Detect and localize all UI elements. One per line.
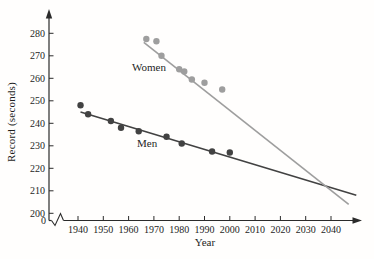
women-data-point	[158, 53, 164, 59]
men-data-point	[77, 102, 83, 108]
men-data-point	[179, 140, 185, 146]
x-tick-label: 1950	[93, 224, 113, 235]
women-data-point	[153, 38, 159, 44]
x-tick-label: 2020	[270, 224, 290, 235]
x-tick-label: 1980	[169, 224, 189, 235]
record-vs-year-chart: 2002102202302402502602702800194019501960…	[0, 0, 374, 259]
y-tick-label: 280	[30, 28, 45, 39]
women-data-point	[201, 80, 207, 86]
origin-label: 0	[41, 215, 46, 226]
women-data-point	[181, 68, 187, 74]
men-trend-line	[81, 112, 357, 195]
x-tick-label: 1940	[68, 224, 88, 235]
y-axis-arrow-icon	[46, 9, 52, 19]
women-data-point	[189, 76, 195, 82]
x-tick-label: 2030	[296, 224, 316, 235]
y-tick-label: 250	[30, 95, 45, 106]
y-tick-label: 240	[30, 118, 45, 129]
women-data-point	[219, 86, 225, 92]
chart-canvas: 2002102202302402502602702800194019501960…	[0, 0, 374, 259]
x-tick-label: 2000	[220, 224, 240, 235]
y-tick-label: 230	[30, 140, 45, 151]
men-data-point	[136, 128, 142, 134]
men-data-point	[108, 118, 114, 124]
men-data-point	[227, 149, 233, 155]
women-series-label: Women	[132, 61, 166, 73]
men-data-point	[85, 111, 91, 117]
x-tick-label: 2040	[321, 224, 341, 235]
men-data-point	[163, 134, 169, 140]
men-series-label: Men	[137, 137, 157, 149]
x-axis-arrow-icon	[353, 217, 363, 223]
y-axis-title: Record (seconds)	[5, 82, 17, 162]
x-axis-title: Year	[195, 236, 215, 248]
men-data-point	[118, 125, 124, 131]
x-tick-label: 1990	[195, 224, 215, 235]
x-tick-label: 1970	[144, 224, 164, 235]
axis-break-icon	[52, 214, 64, 226]
y-tick-label: 210	[30, 185, 45, 196]
x-tick-label: 2010	[245, 224, 265, 235]
women-data-point	[143, 36, 149, 42]
y-tick-label: 220	[30, 163, 45, 174]
x-tick-label: 1960	[119, 224, 139, 235]
men-data-point	[209, 148, 215, 154]
y-tick-label: 260	[30, 73, 45, 84]
women-trend-line	[144, 42, 349, 204]
y-tick-label: 270	[30, 50, 45, 61]
